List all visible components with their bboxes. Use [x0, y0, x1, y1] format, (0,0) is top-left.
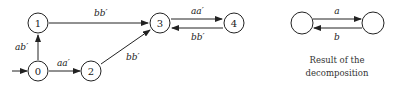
state-node-1: 1 [28, 13, 48, 33]
edge-label-4-3: bb′ [191, 32, 205, 42]
state-node-2: 2 [81, 61, 101, 81]
edge-label-0-1: ab′ [15, 42, 28, 52]
edge-label-3-4: aa′ [191, 6, 204, 16]
edge-label-1-3: bb′ [94, 8, 108, 18]
caption-line-2: decomposition [306, 68, 369, 78]
edge-label-2-3: bb′ [126, 52, 140, 62]
state-label: 1 [35, 18, 41, 29]
automaton-graph: 0 1 2 3 4 ab′ aa′ bb′ bb′ aa′ bb′ [12, 6, 244, 81]
diagram-canvas: 0 1 2 3 4 ab′ aa′ bb′ bb′ aa′ bb′ a [0, 0, 397, 87]
state-label: 4 [231, 18, 237, 29]
caption-line-1: Result of the [310, 55, 365, 65]
edge-label-a: a [334, 6, 339, 16]
state-node-0: 0 [28, 61, 48, 81]
state-node-4: 4 [224, 13, 244, 33]
decomposition-result: a b Result of the decomposition [291, 6, 384, 78]
state-label: 3 [157, 18, 163, 29]
edge-label-b: b [334, 32, 340, 42]
state-label: 2 [88, 66, 94, 77]
result-state-right [362, 12, 384, 34]
edge-label-0-2: aa′ [57, 58, 70, 68]
state-label: 0 [35, 66, 41, 77]
result-state-left [291, 12, 313, 34]
state-node-3: 3 [150, 13, 170, 33]
